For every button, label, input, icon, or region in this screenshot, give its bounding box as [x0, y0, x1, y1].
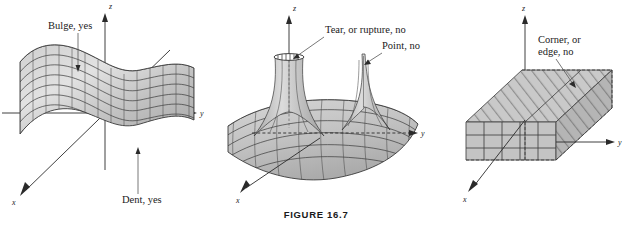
saddle-surface-body	[20, 43, 194, 139]
callout-dent: Dent, yes	[122, 147, 162, 205]
panel-box-solid: z	[430, 0, 632, 205]
z-axis-label: z	[108, 2, 113, 11]
spiked-surface-diagram: z	[212, 0, 430, 205]
z-axis-label: z	[521, 4, 526, 13]
callout-corner-line2: edge, no	[538, 46, 574, 57]
figure-caption: FIGURE 16.7	[0, 209, 632, 220]
spike-tear	[254, 54, 324, 136]
x-axis-label: x	[235, 196, 240, 205]
y-axis-label: y	[420, 129, 425, 138]
y-axis-label: y	[617, 138, 622, 147]
z-axis-label: z	[292, 4, 297, 13]
callout-point-label: Point, no	[382, 40, 420, 51]
panel-smooth-saddle-surface: z y x	[0, 0, 212, 205]
y-axis-label: y	[199, 109, 204, 118]
x-axis-label: x	[462, 195, 467, 204]
callout-dent-label: Dent, yes	[122, 194, 162, 205]
figure-16-7: z y x	[0, 0, 632, 230]
panel-spiked-surface: z	[212, 0, 430, 205]
x-axis-label: x	[11, 198, 16, 205]
callout-tear-label: Tear, or rupture, no	[325, 24, 406, 35]
z-axis-middle: z	[286, 4, 297, 60]
base-sheet	[226, 99, 420, 185]
saddle-surface-diagram: z y x	[0, 0, 212, 205]
callout-corner-line1: Corner, or	[538, 34, 581, 45]
callout-point: Point, no	[364, 40, 420, 65]
box-solid-diagram: z	[430, 0, 632, 205]
box-front-face	[466, 122, 556, 160]
callout-bulge-label: Bulge, yes	[48, 20, 92, 31]
